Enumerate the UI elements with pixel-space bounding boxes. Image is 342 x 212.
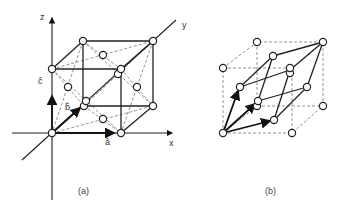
atom-face-center <box>82 97 89 104</box>
atom <box>117 65 124 72</box>
a-vector-label: â <box>105 137 110 147</box>
caption-b: (b) <box>265 186 276 196</box>
primitive-cell-edges <box>240 42 323 120</box>
atom <box>48 65 55 72</box>
fcc-lattice-figure: z x y <box>0 0 342 212</box>
atom <box>149 102 156 109</box>
atom <box>254 97 261 104</box>
z-axis-label: z <box>40 12 45 22</box>
y-axis-label: y <box>182 20 187 30</box>
atom-origin <box>219 129 226 136</box>
caption-a: (a) <box>78 186 89 196</box>
atom-face-center <box>99 51 106 58</box>
atom <box>288 129 295 136</box>
atom-face-center <box>133 83 140 90</box>
atom-face-center <box>99 115 106 122</box>
atom <box>117 129 124 136</box>
atom <box>286 64 293 71</box>
panel-b: (b) <box>219 38 326 196</box>
atom-face-center <box>64 83 71 90</box>
atom <box>319 38 326 45</box>
b-vector-label: b̂ <box>65 102 70 112</box>
atom <box>270 116 277 123</box>
atom <box>303 83 310 90</box>
atom-origin <box>48 129 55 136</box>
atom <box>219 64 226 71</box>
atom <box>236 83 243 90</box>
panel-a: z x y <box>12 12 187 200</box>
atom <box>269 52 276 59</box>
atom <box>253 38 260 45</box>
primitive-vectors <box>223 91 270 133</box>
atom <box>149 37 156 44</box>
c-vector-label: ĉ <box>38 76 43 86</box>
atom <box>79 37 86 44</box>
x-axis-label: x <box>169 138 174 148</box>
atom <box>319 102 326 109</box>
